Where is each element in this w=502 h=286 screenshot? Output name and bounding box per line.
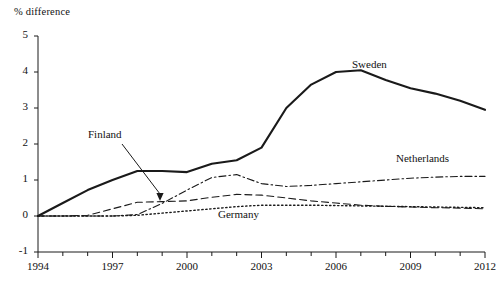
x-tick-label: 2009	[389, 260, 433, 272]
series-label-sweden: Sweden	[352, 58, 387, 70]
y-tick-label: 2	[6, 136, 28, 148]
series-label-netherlands: Netherlands	[396, 152, 449, 164]
x-tick-label: 2006	[314, 260, 358, 272]
x-tick-label: 2012	[463, 260, 502, 272]
y-tick-label: 1	[6, 172, 28, 184]
x-tick-label: 2000	[165, 260, 209, 272]
series-label-germany: Germany	[218, 208, 259, 220]
series-line-sweden	[38, 70, 485, 216]
y-tick-label: -1	[6, 244, 28, 256]
plot-area	[0, 0, 502, 286]
y-tick-label: 0	[6, 208, 28, 220]
chart-container: % difference 543210-11994199720002003200…	[0, 0, 502, 286]
series-label-finland: Finland	[88, 128, 122, 140]
y-tick-label: 5	[6, 28, 28, 40]
x-tick-label: 1997	[91, 260, 135, 272]
y-tick-label: 3	[6, 100, 28, 112]
y-tick-label: 4	[6, 64, 28, 76]
x-tick-label: 2003	[240, 260, 284, 272]
annotation-arrow-head-finland	[156, 193, 163, 201]
annotation-arrow-line-finland	[122, 144, 160, 194]
x-tick-label: 1994	[16, 260, 60, 272]
